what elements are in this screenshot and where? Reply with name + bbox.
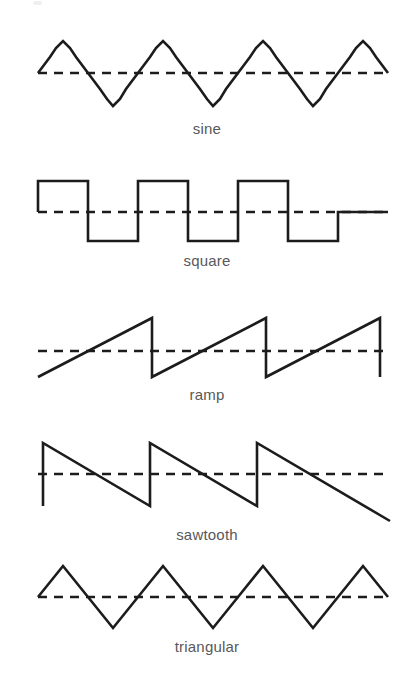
- waveform-label-square: square: [0, 252, 414, 270]
- waveform-trace-ramp: [38, 318, 380, 377]
- scan-artifact: [33, 1, 42, 5]
- waveform-row-ramp: ramp: [0, 310, 414, 404]
- waveform-plot-triangular: [0, 560, 414, 638]
- waveform-row-square: square: [0, 172, 414, 270]
- waveform-plot-ramp: [0, 310, 414, 386]
- waveform-plot-sine: [0, 20, 414, 120]
- waveform-label-ramp: ramp: [0, 386, 414, 404]
- waveform-figure: sine square ramp sawtooth triangular: [0, 0, 414, 684]
- waveform-row-sine: sine: [0, 20, 414, 138]
- waveform-row-sawtooth: sawtooth: [0, 436, 414, 544]
- waveform-trace-sawtooth: [43, 443, 390, 521]
- waveform-plot-sawtooth: [0, 436, 414, 526]
- waveform-row-triangular: triangular: [0, 560, 414, 656]
- waveform-plot-square: [0, 172, 414, 252]
- waveform-label-sawtooth: sawtooth: [0, 526, 414, 544]
- waveform-label-triangular: triangular: [0, 638, 414, 656]
- waveform-label-sine: sine: [0, 120, 414, 138]
